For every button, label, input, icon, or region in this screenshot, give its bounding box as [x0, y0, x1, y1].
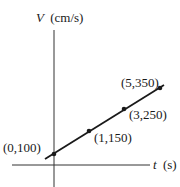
annotation-1-150: (1,150) [94, 130, 132, 145]
data-point-1 [87, 129, 92, 134]
y-axis-label: V (cm/s) [36, 10, 83, 25]
velocity-time-chart: V (cm/s) t (s) (0,100) (1,150) (3,250) (… [0, 0, 180, 187]
annotation-3-250: (3,250) [129, 107, 167, 122]
annotation-5-350: (5,350) [121, 75, 159, 90]
data-point-3 [122, 107, 127, 112]
annotation-0-100: (0,100) [3, 140, 41, 155]
data-line [45, 85, 164, 159]
x-axis-label: t (s) [153, 157, 177, 172]
data-point-0 [52, 152, 57, 157]
